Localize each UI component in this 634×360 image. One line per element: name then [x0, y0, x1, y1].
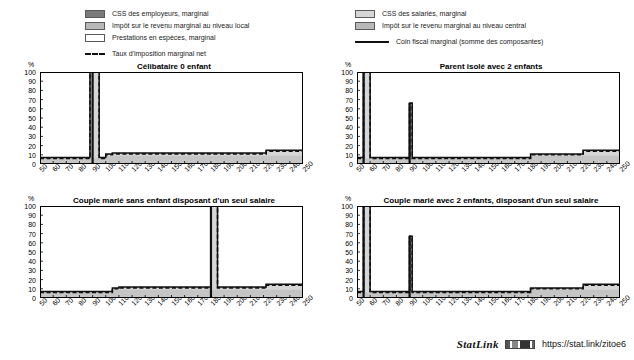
y-tick-label: 40 — [28, 258, 36, 265]
y-tick-label: 0 — [32, 161, 36, 168]
legend-item-left-1: Impôt sur le revenu marginal au niveau l… — [85, 20, 335, 31]
x-tick-label: 50 — [38, 296, 48, 306]
y-tick-label: 70 — [345, 231, 353, 238]
legend-swatch-icon — [85, 10, 105, 18]
y-tick-label: 100 — [341, 203, 353, 210]
y-tick-label: 80 — [28, 221, 36, 228]
x-tick-label: 50 — [38, 162, 48, 172]
legend-column-left: CSS des employeurs, marginalImpôt sur le… — [85, 8, 335, 60]
x-axis-tick-labels: 5060708090100110120130140150160170180190… — [40, 166, 303, 192]
x-tick-label: 60 — [368, 162, 378, 172]
legend-item-label: Prestations en espèces, marginal — [112, 33, 216, 42]
x-tick-label: 60 — [51, 296, 61, 306]
y-tick-label: 10 — [345, 286, 353, 293]
legend-item-left-2: Prestations en espèces, marginal — [85, 32, 335, 43]
chart-panel-0: %Célibataire 0 enfant0102030405060708090… — [0, 60, 317, 194]
legend-item-right-1: Impôt sur le revenu marginal au niveau c… — [355, 20, 630, 31]
x-tick-label: 70 — [381, 162, 391, 172]
legend-item-label: Impôt sur le revenu marginal au niveau l… — [112, 21, 249, 30]
chart-grid: %Célibataire 0 enfant0102030405060708090… — [0, 60, 634, 328]
x-axis-tick-labels: 5060708090100110120130140150160170180190… — [357, 300, 620, 326]
legend-item-left-3: Taux d'imposition marginal net — [85, 48, 335, 59]
y-axis-tick-labels: 0102030405060708090100 — [331, 72, 355, 164]
y-axis-unit-label: % — [345, 195, 351, 203]
y-tick-label: 100 — [341, 69, 353, 76]
legend-item-label: CSS des salariés, marginal — [382, 9, 466, 18]
y-tick-label: 20 — [28, 143, 36, 150]
chart-panel-3: %Couple marié avec 2 enfants, disposant … — [317, 194, 634, 328]
y-tick-label: 30 — [345, 267, 353, 274]
x-tick-label: 60 — [368, 296, 378, 306]
chart-panel-2: %Couple marié sans enfant disposant d'un… — [0, 194, 317, 328]
chart-title: Couple marié avec 2 enfants, disposant d… — [357, 196, 625, 205]
x-tick-label: 90 — [91, 296, 101, 306]
statlink-label: StatLink — [457, 338, 499, 350]
spike-marker-0 — [92, 72, 94, 164]
y-tick-label: 30 — [345, 133, 353, 140]
x-axis-tick-labels: 5060708090100110120130140150160170180190… — [357, 166, 620, 192]
y-tick-label: 30 — [28, 267, 36, 274]
y-tick-label: 10 — [345, 152, 353, 159]
y-tick-label: 60 — [345, 240, 353, 247]
legend-swatch-icon — [355, 10, 375, 18]
x-tick-label: 80 — [77, 162, 87, 172]
y-tick-label: 70 — [28, 97, 36, 104]
y-tick-label: 90 — [28, 212, 36, 219]
legend-swatch-icon — [355, 22, 375, 30]
x-tick-label: 80 — [394, 296, 404, 306]
legend-item-label: CSS des employeurs, marginal — [112, 9, 209, 18]
y-tick-label: 20 — [28, 277, 36, 284]
x-tick-label: 90 — [91, 162, 101, 172]
y-tick-label: 70 — [28, 231, 36, 238]
y-tick-label: 80 — [345, 221, 353, 228]
chart-panel-1: %Parent isolé avec 2 enfants010203040506… — [317, 60, 634, 194]
y-tick-label: 40 — [345, 258, 353, 265]
plot-area — [40, 72, 303, 164]
y-tick-label: 50 — [345, 115, 353, 122]
legend-item-label: Taux d'imposition marginal net — [112, 49, 206, 58]
y-tick-label: 50 — [28, 249, 36, 256]
x-tick-label: 50 — [355, 296, 365, 306]
x-tick-label: 70 — [64, 296, 74, 306]
chart-title: Célibataire 0 enfant — [40, 62, 308, 71]
y-tick-label: 10 — [28, 152, 36, 159]
y-tick-label: 0 — [349, 295, 353, 302]
y-axis-unit-label: % — [28, 195, 34, 203]
y-tick-label: 0 — [32, 295, 36, 302]
y-tick-label: 20 — [345, 277, 353, 284]
y-tick-label: 60 — [28, 240, 36, 247]
y-tick-label: 40 — [28, 124, 36, 131]
x-tick-label: 60 — [51, 162, 61, 172]
x-tick-label: 70 — [381, 296, 391, 306]
x-tick-label: 80 — [77, 296, 87, 306]
y-tick-label: 40 — [345, 124, 353, 131]
y-tick-label: 80 — [28, 87, 36, 94]
statlink-url[interactable]: https://stat.link/zitoe6 — [542, 339, 626, 349]
x-tick-label: 70 — [64, 162, 74, 172]
chart-title: Parent isolé avec 2 enfants — [357, 62, 625, 71]
y-tick-label: 60 — [28, 106, 36, 113]
legend-swatch-icon — [85, 34, 105, 42]
chart-legend: CSS des employeurs, marginalImpôt sur le… — [0, 8, 634, 60]
legend-item-label: Impôt sur le revenu marginal au niveau c… — [382, 21, 526, 30]
legend-item-right-2: Coin fiscal marginal (somme des composan… — [355, 36, 630, 47]
y-tick-label: 80 — [345, 87, 353, 94]
y-tick-label: 50 — [28, 115, 36, 122]
chart-title: Couple marié sans enfant disposant d'un … — [40, 196, 308, 205]
y-tick-label: 50 — [345, 249, 353, 256]
legend-column-right: CSS des salariés, marginalImpôt sur le r… — [355, 8, 630, 48]
y-tick-label: 100 — [24, 69, 36, 76]
legend-item-right-0: CSS des salariés, marginal — [355, 8, 630, 19]
y-tick-label: 90 — [28, 78, 36, 85]
plot-area — [357, 72, 620, 164]
legend-item-label: Coin fiscal marginal (somme des composan… — [396, 37, 543, 46]
y-axis-tick-labels: 0102030405060708090100 — [14, 206, 38, 298]
statlink-footer: StatLink https://stat.link/zitoe6 — [0, 334, 634, 354]
y-tick-label: 0 — [349, 161, 353, 168]
plot-area — [40, 206, 303, 298]
y-tick-label: 20 — [345, 143, 353, 150]
y-tick-label: 70 — [345, 97, 353, 104]
y-tick-label: 90 — [345, 212, 353, 219]
x-tick-label: 90 — [408, 296, 418, 306]
x-axis-tick-labels: 5060708090100110120130140150160170180190… — [40, 300, 303, 326]
